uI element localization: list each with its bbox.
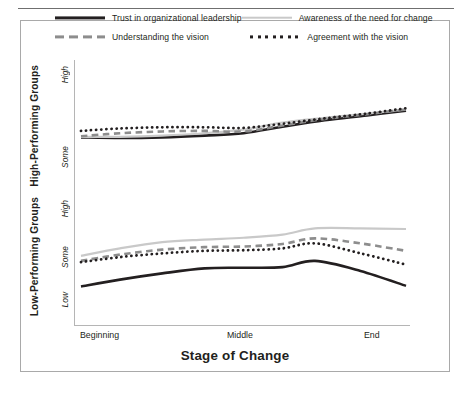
- legend-label-trust: Trust in organizational leadership: [112, 13, 242, 23]
- legend-swatch-dashed-icon: [55, 31, 105, 43]
- panel-high-performing: High-Performing Groups High Some: [24, 60, 410, 192]
- y-tick-bottom-low: Low: [60, 292, 70, 307]
- panel-title-high-performing: High-Performing Groups: [24, 60, 46, 192]
- y-tick-bottom-high: High: [60, 200, 70, 217]
- legend-item-awareness: Awareness of the need for change: [242, 12, 432, 24]
- legend-swatch-solid-dark-icon: [55, 12, 105, 24]
- legend-row-1: Trust in organizational leadership Aware…: [55, 8, 427, 27]
- panel-title-high-performing-text: High-Performing Groups: [29, 65, 41, 187]
- x-tick-beginning: Beginning: [80, 330, 119, 340]
- legend-item-understanding: Understanding the vision: [55, 31, 250, 43]
- x-axis-tick-labels: Beginning Middle End: [74, 330, 410, 344]
- y-tick-top-high: High: [60, 66, 70, 83]
- plot-area-low-performing: [74, 188, 410, 326]
- legend-label-agreement: Agreement with the vision: [307, 32, 408, 42]
- series-line: [81, 108, 406, 131]
- series-line: [81, 261, 406, 287]
- y-axis-ticks-top: High Some: [46, 60, 72, 192]
- plot-lines-high-performing: [75, 60, 410, 191]
- panel-title-low-performing: Low-Performing Groups: [24, 188, 46, 326]
- legend-item-agreement: Agreement with the vision: [250, 31, 427, 43]
- panel-title-low-performing-text: Low-Performing Groups: [29, 197, 41, 316]
- chart-legend: Trust in organizational leadership Aware…: [55, 8, 427, 48]
- y-tick-top-some: Some: [60, 146, 70, 168]
- legend-label-understanding: Understanding the vision: [112, 32, 209, 42]
- legend-label-awareness: Awareness of the need for change: [299, 13, 433, 23]
- legend-swatch-solid-light-icon: [242, 12, 292, 24]
- panel-low-performing: Low-Performing Groups High Some Low: [24, 188, 410, 326]
- x-tick-end: End: [364, 330, 380, 340]
- x-tick-middle: Middle: [227, 330, 253, 340]
- legend-swatch-dotted-icon: [250, 31, 300, 43]
- y-axis-ticks-bottom: High Some Low: [46, 188, 72, 326]
- legend-row-2: Understanding the vision Agreement with …: [55, 27, 427, 46]
- plot-area-high-performing: [74, 60, 410, 192]
- y-tick-bottom-some: Some: [60, 246, 70, 268]
- figure-root: Trust in organizational leadership Aware…: [0, 0, 472, 395]
- plot-lines-low-performing: [75, 188, 410, 325]
- legend-item-trust: Trust in organizational leadership: [55, 12, 242, 24]
- x-axis-title: Stage of Change: [20, 348, 450, 363]
